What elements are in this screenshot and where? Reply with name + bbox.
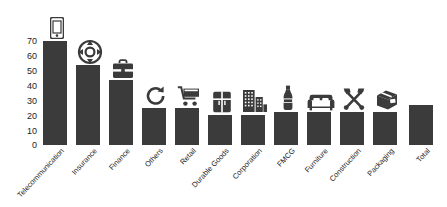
refrigerator-icon	[206, 85, 238, 113]
x-axis-label-text: Total	[415, 147, 432, 164]
bar-durable-goods	[208, 115, 232, 145]
x-axis-label-text: FMCG	[276, 147, 297, 169]
x-axis-label-text: Packaging	[366, 147, 396, 178]
x-axis-label-text: Insurance	[71, 147, 99, 177]
refresh-arrow-icon	[140, 79, 172, 107]
bar-telecommunication	[43, 41, 67, 145]
bar-furniture	[307, 112, 331, 145]
y-tick-label: 20	[27, 112, 37, 121]
x-axis-label-text: Construction	[328, 147, 363, 183]
bar-retail	[175, 108, 199, 145]
bar-chart: 70 60 50 40 30 20 10 0	[0, 0, 447, 207]
y-tick-label: 60	[27, 52, 37, 61]
y-tick-label: 10	[27, 127, 37, 136]
office-buildings-icon	[239, 85, 271, 113]
y-tick-label: 50	[27, 67, 37, 76]
y-tick-label: 40	[27, 82, 37, 91]
plot-area: Telecommunication Insurance Finance Othe…	[41, 0, 447, 207]
x-axis-label-text: Retail	[179, 147, 198, 166]
y-tick-label: 30	[27, 97, 37, 106]
bottle-icon	[272, 83, 304, 111]
package-box-icon	[371, 83, 403, 111]
lifebuoy-icon	[74, 37, 106, 65]
x-axis-label-text: Others	[144, 147, 165, 169]
hammer-wrench-icon	[338, 83, 370, 111]
y-tick-label: 0	[32, 141, 37, 150]
smartphone-icon	[41, 11, 73, 39]
sofa-icon	[305, 83, 337, 111]
x-axis-label-text: Furniture	[304, 147, 330, 174]
x-axis-label-text: Finance	[108, 147, 132, 172]
y-tick-label: 70	[27, 37, 37, 46]
briefcase-icon	[107, 51, 139, 79]
x-axis-label-text: Corporation	[231, 147, 264, 181]
bar-others	[142, 108, 166, 145]
shopping-cart-icon	[173, 79, 205, 107]
